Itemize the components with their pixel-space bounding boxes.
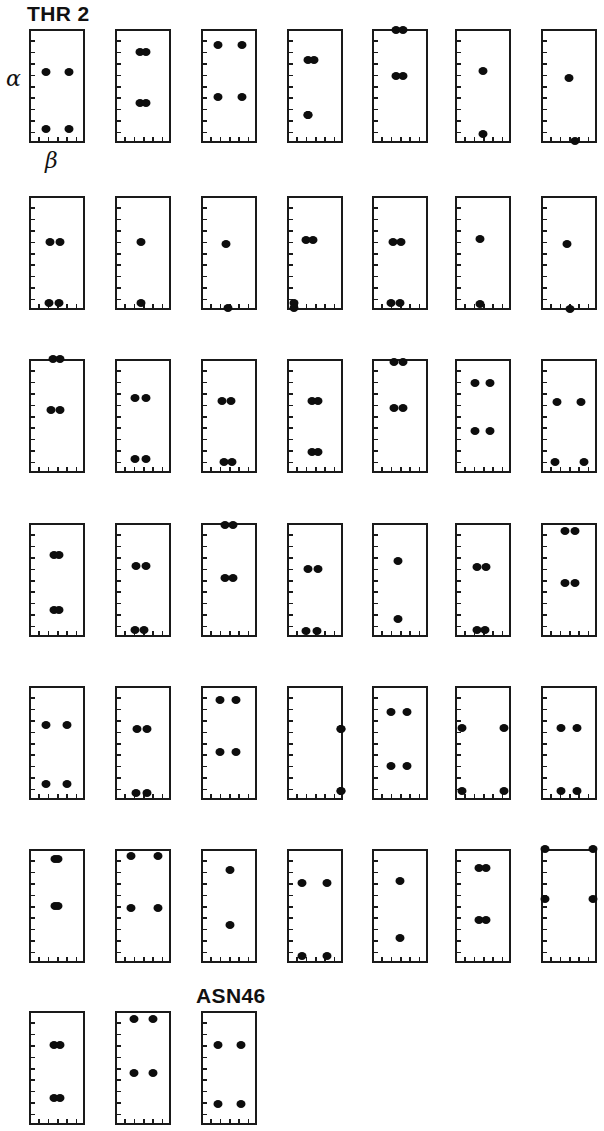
axis-tick-alpha (374, 872, 378, 874)
axis-tick-alpha (31, 63, 35, 65)
axis-tick-beta (76, 794, 78, 798)
axis-tick-beta (143, 137, 145, 141)
axis-tick-beta (66, 957, 68, 961)
axis-tick-alpha (289, 416, 293, 418)
axis-tick-alpha (203, 40, 207, 42)
axis-tick-beta (474, 794, 476, 798)
axis-tick-alpha (203, 207, 207, 209)
residue-panel-6 (455, 29, 511, 143)
data-point (399, 404, 408, 412)
panel-frame (29, 1011, 85, 1125)
axis-tick-alpha (543, 264, 547, 266)
axis-tick-alpha (374, 534, 378, 536)
axis-tick-beta (210, 631, 212, 635)
axis-tick-alpha (31, 720, 35, 722)
axis-tick-alpha (457, 382, 461, 384)
data-point (570, 137, 579, 145)
axis-tick-beta (400, 957, 402, 961)
axis-tick-alpha (31, 534, 35, 536)
axis-tick-alpha (457, 370, 461, 372)
axis-tick-beta (57, 794, 59, 798)
axis-tick-alpha (117, 929, 121, 931)
axis-tick-alpha (203, 1079, 207, 1081)
axis-tick-alpha (117, 614, 121, 616)
data-point (220, 574, 229, 582)
axis-tick-alpha (31, 872, 35, 874)
data-point (565, 74, 574, 82)
axis-tick-alpha (289, 120, 293, 122)
axis-tick-alpha (457, 40, 461, 42)
axis-tick-alpha (374, 732, 378, 734)
data-point (131, 626, 140, 634)
axis-tick-beta (334, 631, 336, 635)
axis-tick-beta (578, 631, 580, 635)
axis-tick-alpha (117, 242, 121, 244)
data-point (387, 762, 396, 770)
axis-tick-beta (134, 304, 136, 308)
axis-tick-alpha (374, 86, 378, 88)
axis-tick-alpha (117, 777, 121, 779)
axis-tick-alpha (543, 427, 547, 429)
panel-frame (455, 196, 511, 310)
residue-panel-12 (372, 196, 428, 310)
residue-panel-24 (201, 523, 257, 637)
axis-tick-beta (38, 794, 40, 798)
axis-tick-alpha (117, 462, 121, 464)
axis-tick-alpha (117, 86, 121, 88)
axis-tick-alpha (543, 534, 547, 536)
axis-tick-beta (66, 467, 68, 471)
data-point (577, 398, 586, 406)
axis-tick-alpha (289, 63, 293, 65)
data-point (396, 877, 405, 885)
axis-tick-alpha (457, 709, 461, 711)
axis-tick-beta (391, 137, 393, 141)
axis-tick-alpha (31, 1114, 35, 1116)
axis-tick-alpha (117, 883, 121, 885)
residue-panel-11 (287, 196, 343, 310)
axis-tick-alpha (289, 86, 293, 88)
axis-tick-alpha (203, 697, 207, 699)
panel-frame (115, 523, 171, 637)
axis-tick-alpha (543, 253, 547, 255)
axis-tick-alpha (543, 370, 547, 372)
residue-panel-40 (372, 849, 428, 963)
axis-tick-beta (248, 631, 250, 635)
data-point (140, 626, 149, 634)
axis-tick-beta (409, 631, 411, 635)
axis-tick-alpha (457, 86, 461, 88)
axis-tick-alpha (374, 370, 378, 372)
axis-tick-alpha (31, 732, 35, 734)
axis-tick-beta (409, 304, 411, 308)
axis-tick-alpha (117, 1057, 121, 1059)
residue-panel-33 (372, 686, 428, 800)
axis-tick-alpha (117, 427, 121, 429)
residue-panel-39 (287, 849, 343, 963)
axis-tick-beta (134, 467, 136, 471)
data-point (390, 358, 399, 366)
axis-tick-beta (492, 304, 494, 308)
axis-tick-alpha (117, 743, 121, 745)
axis-tick-beta (57, 467, 59, 471)
axis-tick-beta (38, 1119, 40, 1123)
axis-tick-alpha (117, 569, 121, 571)
axis-tick-alpha (117, 132, 121, 134)
axis-tick-beta (210, 137, 212, 141)
data-point (309, 236, 318, 244)
axis-tick-beta (162, 1119, 164, 1123)
axis-tick-alpha (203, 52, 207, 54)
axis-tick-alpha (543, 439, 547, 441)
axis-tick-beta (210, 467, 212, 471)
axis-tick-alpha (203, 462, 207, 464)
axis-tick-beta (492, 631, 494, 635)
axis-tick-alpha (31, 697, 35, 699)
axis-tick-alpha (289, 40, 293, 42)
axis-tick-beta (210, 957, 212, 961)
axis-tick-alpha (457, 626, 461, 628)
axis-tick-beta (464, 794, 466, 798)
axis-tick-alpha (31, 230, 35, 232)
axis-tick-alpha (31, 626, 35, 628)
residue-panel-27 (455, 523, 511, 637)
axis-tick-alpha (374, 405, 378, 407)
axis-tick-beta (334, 137, 336, 141)
panel-frame (29, 523, 85, 637)
